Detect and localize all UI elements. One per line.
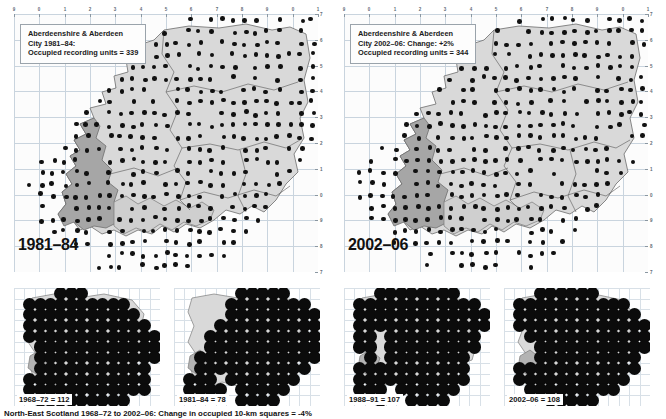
map-record-dot [506,205,511,210]
map-record-dot [131,172,136,177]
map-record-dot [152,136,157,141]
map-record-dot [451,170,456,175]
map-occupied-units-value: 344 [456,48,468,57]
map-record-dot [504,136,509,141]
map-record-dot [640,86,645,91]
map-record-dot [254,99,259,104]
map-record-dot [605,157,610,162]
map-record-dot [526,205,531,210]
map-record-dot [529,65,534,70]
map-record-dot [230,205,235,210]
axis-tick-mark [315,66,318,67]
map-record-dot [74,134,79,139]
map-record-dot [539,193,544,198]
axis-tick-mark [293,14,294,17]
map-record-dot [450,251,455,256]
map-title-box: Aberdeenshire & Aberdeen City 2002–06: C… [350,24,476,64]
map-record-dot [244,158,249,163]
axis-tick-label-top: 0 [368,7,371,12]
map-record-dot [639,100,644,105]
map-record-dot [504,66,509,71]
map-record-dot [107,88,112,93]
map-record-dot [482,170,487,175]
map-record-dot [483,159,488,164]
map-record-dot [119,112,124,117]
map-record-dot [75,183,80,188]
map-record-dot [428,145,433,150]
map-record-dot [596,63,601,68]
map-record-dot [120,77,125,82]
map-record-dot [254,52,259,57]
axis-tick-label-right: 5 [650,64,653,69]
map-record-dot [437,240,442,245]
map-record-dot [493,52,498,57]
map-occupied-units-label: Occupied recording units = [28,48,126,57]
map-record-dot [175,218,180,223]
map-record-dot [470,239,475,244]
map-record-dot [253,113,258,118]
map-record-dot [582,53,587,58]
map-record-dot [369,216,374,221]
axis-tick-label-top: 9 [13,7,16,12]
map-record-dot [493,263,498,268]
map-record-dot [174,182,179,187]
map-record-dot [515,64,520,69]
map-record-dot [188,122,193,127]
map-record-dot [243,170,248,175]
map-record-dot [75,219,80,224]
inset-record-dot [437,394,450,406]
inset-record-dot [267,394,280,406]
map-record-dot [310,123,315,128]
map-record-dot [84,230,89,235]
map-record-dot [41,170,46,175]
map-record-dot [459,263,464,268]
map-record-dot [62,160,67,165]
map-record-dot [537,64,542,69]
axis-tick-label-right: 3 [320,115,323,120]
map-record-dot [209,29,214,34]
map-record-dot [381,204,386,209]
map-record-dot [584,66,589,71]
map-record-dot [484,66,489,71]
axis-tick-mark [597,14,598,17]
map-record-dot [540,251,545,256]
map-record-dot [560,181,565,186]
map-record-dot [162,31,167,36]
map-record-dot [640,28,645,33]
map-record-dot [516,43,521,48]
map-record-dot [416,204,421,209]
axis-tick-mark [315,40,318,41]
map-record-dot [402,133,407,138]
map-record-dot [188,64,193,69]
map-record-dot [517,124,522,129]
axis-tick-mark [191,14,192,17]
map-record-dot [572,86,577,91]
map-record-dot [492,76,497,81]
map-record-dot [451,100,456,105]
map-record-dot [583,135,588,140]
axis-tick-label-right: 6 [650,38,653,43]
map-record-dot [185,87,190,92]
map-record-dot [173,253,178,258]
map-record-dot [207,230,212,235]
map-record-dot [163,182,168,187]
map-record-dot [106,170,111,175]
map-title-box: Aberdeenshire & Aberdeen City 1981–84: O… [20,24,146,64]
map-record-dot [425,193,430,198]
map-record-dot [369,159,374,164]
map-record-dot [551,76,556,81]
map-record-dot [560,158,565,163]
map-record-dot [73,195,78,200]
map-record-dot [310,89,315,94]
map-record-dot [141,65,146,70]
map-record-dot [483,230,488,235]
map-record-dot [571,148,576,153]
map-record-dot [232,42,237,47]
map-record-dot [263,146,268,151]
map-record-dot [210,89,215,94]
map-record-dot [164,78,169,83]
map-record-dot [437,204,442,209]
map-record-dot [176,194,181,199]
map-record-dot [274,134,279,139]
map-record-dot [503,125,508,130]
